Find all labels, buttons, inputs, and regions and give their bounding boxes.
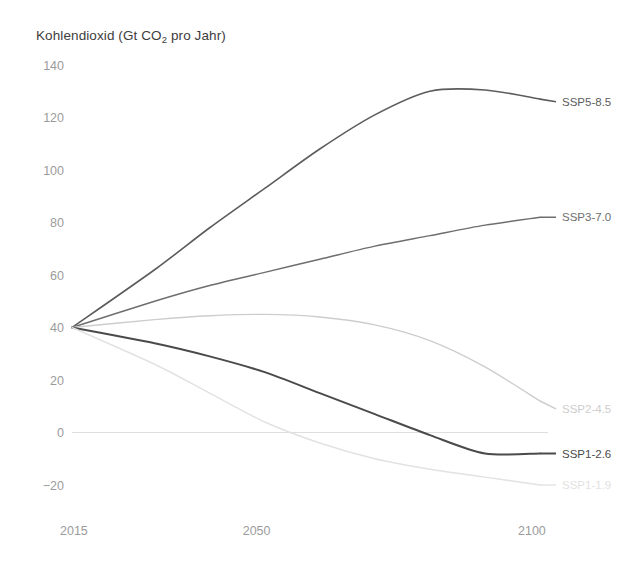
y-axis-tick-labels: 140120100806040200−20 (43, 59, 64, 493)
series-labels: SSP5-8.5SSP3-7.0SSP2-4.5SSP1-2.6SSP1-1.9 (562, 96, 611, 491)
series-line-ssp1-1.9 (72, 328, 540, 486)
y-tick-label: 0 (57, 426, 64, 440)
series-label-ssp2-4.5: SSP2-4.5 (562, 403, 611, 415)
y-tick-label: 80 (50, 216, 64, 230)
y-tick-label: 140 (43, 59, 64, 73)
series-label-ssp3-7.0: SSP3-7.0 (562, 211, 611, 223)
series-line-ssp1-2.6 (72, 328, 540, 455)
y-tick-label: 120 (43, 111, 64, 125)
line-chart-plot: 140120100806040200−20 201520502100 SSP5-… (0, 0, 644, 562)
x-tick-label: 2100 (518, 524, 546, 538)
x-axis-tick-labels: 201520502100 (60, 524, 546, 538)
series-leader-lines (540, 99, 556, 485)
y-tick-label: 60 (50, 269, 64, 283)
series-line-ssp3-7.0 (72, 217, 540, 327)
y-tick-label: 20 (50, 374, 64, 388)
series-label-ssp1-2.6: SSP1-2.6 (562, 448, 611, 460)
y-tick-label: 40 (50, 321, 64, 335)
leader-line-ssp5-8.5 (540, 99, 556, 102)
y-tick-label: 100 (43, 164, 64, 178)
chart-root: Kohlendioxid (Gt CO2 pro Jahr) 140120100… (0, 0, 644, 562)
series-line-ssp5-8.5 (72, 89, 540, 328)
series-lines (72, 89, 540, 485)
x-tick-label: 2050 (243, 524, 271, 538)
leader-line-ssp2-4.5 (540, 401, 556, 409)
series-label-ssp1-1.9: SSP1-1.9 (562, 479, 611, 491)
y-tick-label: −20 (43, 479, 64, 493)
x-tick-label: 2015 (60, 524, 88, 538)
series-label-ssp5-8.5: SSP5-8.5 (562, 96, 611, 108)
